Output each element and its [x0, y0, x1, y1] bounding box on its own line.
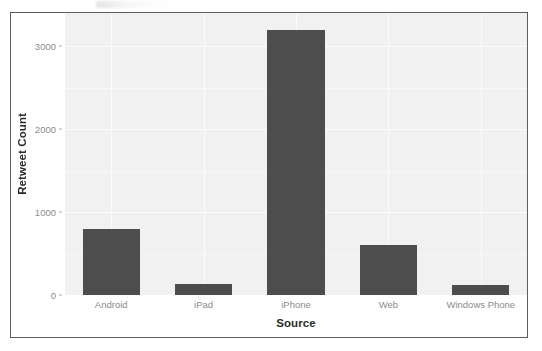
- x-tick-label-iphone: iPhone: [281, 299, 311, 310]
- x-tick-label-web: Web: [379, 299, 398, 310]
- bar-iphone[interactable]: [267, 30, 324, 295]
- plot-panel: [65, 13, 527, 295]
- y-tick-label: 1000: [35, 207, 62, 218]
- plot-grid: Retweet Count 0100020003000 AndroidiPadi…: [11, 13, 527, 337]
- x-axis-tick-labels: AndroidiPadiPhoneWebWindows Phone: [65, 295, 527, 317]
- y-axis-title: Retweet Count: [11, 13, 33, 295]
- chart-figure-frame: Retweet Count 0100020003000 AndroidiPadi…: [10, 12, 528, 338]
- bars-layer: [65, 13, 527, 295]
- x-axis-title: Source: [65, 317, 527, 337]
- scan-artifact: [96, 1, 216, 8]
- y-axis-tick-labels: 0100020003000: [33, 13, 65, 295]
- bar-android[interactable]: [83, 229, 140, 295]
- x-tick-label-ipad: iPad: [194, 299, 213, 310]
- y-tick-label: 3000: [35, 41, 62, 52]
- bar-web[interactable]: [360, 245, 417, 295]
- bar-windows-phone[interactable]: [452, 285, 509, 295]
- x-tick-label-android: Android: [95, 299, 128, 310]
- x-tick-label-windows-phone: Windows Phone: [446, 299, 515, 310]
- x-axis-title-label: Source: [276, 317, 316, 329]
- y-tick-label: 0: [51, 290, 62, 301]
- bar-ipad[interactable]: [175, 284, 232, 295]
- y-tick-label: 2000: [35, 124, 62, 135]
- y-axis-title-label: Retweet Count: [16, 113, 28, 195]
